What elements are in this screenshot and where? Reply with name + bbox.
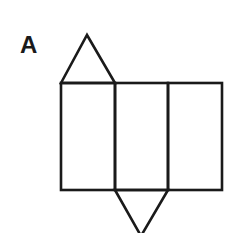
rectangle-right <box>168 83 222 190</box>
prism-net-diagram <box>0 0 240 233</box>
bottom-triangle <box>115 190 168 233</box>
rectangle-middle <box>115 83 168 190</box>
top-triangle <box>61 35 115 83</box>
rectangle-left <box>61 83 115 190</box>
